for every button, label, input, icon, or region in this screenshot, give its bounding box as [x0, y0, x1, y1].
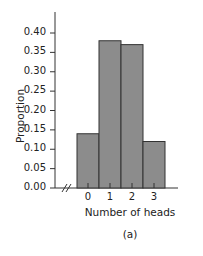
bars [77, 41, 165, 188]
y-tick-label: 0.40 [14, 26, 46, 37]
bar-0 [77, 134, 99, 188]
y-tick-label: 0.00 [14, 181, 46, 192]
y-tick-label: 0.10 [14, 142, 46, 153]
y-tick-label: 0.05 [14, 162, 46, 173]
bar-3 [143, 142, 165, 189]
y-tick-label: 0.35 [14, 45, 46, 56]
x-tick-label: 3 [147, 191, 161, 202]
figure-caption: (a) [70, 228, 190, 240]
x-axis-label: Number of heads [70, 206, 190, 218]
histogram-chart: Proportion 0.000.050.100.150.200.250.300… [0, 0, 203, 256]
x-tick-label: 2 [125, 191, 139, 202]
x-tick-label: 0 [81, 191, 95, 202]
bar-2 [121, 45, 143, 188]
y-tick-label: 0.20 [14, 104, 46, 115]
bar-1 [99, 41, 121, 188]
x-tick-label: 1 [103, 191, 117, 202]
y-tick-label: 0.15 [14, 123, 46, 134]
y-tick-label: 0.30 [14, 65, 46, 76]
y-ticks [50, 33, 55, 188]
y-tick-label: 0.25 [14, 84, 46, 95]
